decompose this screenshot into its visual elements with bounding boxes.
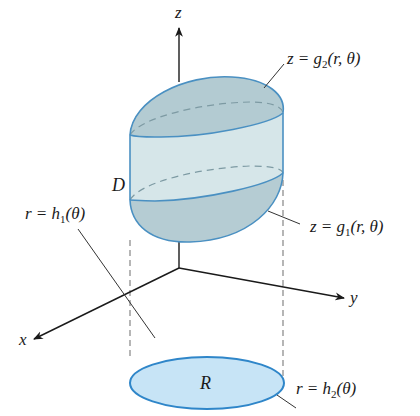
inner-boundary-lhs: r = h <box>25 204 60 223</box>
y-axis-label: y <box>348 288 358 307</box>
x-axis <box>34 268 179 339</box>
x-axis-label: x <box>18 330 27 349</box>
solid-label-d: D <box>111 175 125 195</box>
top-surface-equation: z = g2(r, θ) <box>286 49 361 70</box>
solid-d <box>130 77 283 242</box>
bottom-surface-leader <box>268 211 300 224</box>
bottom-surface-rhs: (r, θ) <box>351 217 384 236</box>
outer-boundary-rhs: (θ) <box>337 379 357 398</box>
inner-boundary-equation: r = h1(θ) <box>25 204 86 225</box>
top-surface-rhs: (r, θ) <box>328 49 361 68</box>
outer-boundary-lhs: r = h <box>296 379 331 398</box>
bottom-surface-lhs: z = g <box>309 217 345 236</box>
cylindrical-solid-diagram: z y x D R z = g2(r, θ) z = g1(r, θ) r = … <box>0 0 420 416</box>
outer-boundary-leader <box>277 395 296 408</box>
y-axis <box>179 268 344 298</box>
inner-boundary-leader <box>78 229 155 338</box>
bottom-surface-equation: z = g1(r, θ) <box>309 217 384 238</box>
z-axis-label: z <box>174 3 182 22</box>
top-surface-leader <box>264 64 284 88</box>
top-surface-lhs: z = g <box>286 49 322 68</box>
outer-boundary-equation: r = h2(θ) <box>296 379 357 400</box>
region-label-r: R <box>199 373 211 393</box>
inner-boundary-rhs: (θ) <box>66 204 86 223</box>
